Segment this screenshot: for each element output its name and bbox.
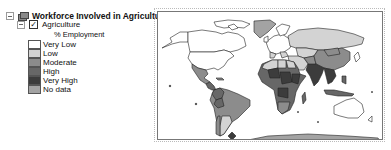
world-map	[158, 12, 383, 140]
legend-label: Very Low	[43, 40, 76, 49]
legend-field-label: % Employment	[54, 30, 104, 39]
legend-item: Very High	[28, 76, 78, 85]
legend-item: Very Low	[28, 40, 76, 49]
legend-label: Moderate	[43, 58, 77, 67]
legend-label: Very High	[43, 76, 78, 85]
legend-swatch-moderate	[28, 58, 41, 67]
legend-item: High	[28, 67, 59, 76]
legend-label: High	[43, 67, 59, 76]
layer-visibility-checkbox[interactable]: ✓	[29, 20, 38, 29]
legend-label: Low	[43, 49, 58, 58]
collapse-layer-icon[interactable]	[17, 21, 25, 29]
table-of-contents: Workforce Involved in Agriculture ✓ Agri…	[0, 0, 150, 150]
map-frame[interactable]	[157, 11, 383, 140]
layers-icon	[18, 12, 28, 20]
legend-item: Low	[28, 49, 58, 58]
legend-label: No data	[43, 85, 71, 94]
legend-swatch-no-data	[28, 85, 41, 94]
layer-name: Agriculture	[42, 20, 80, 29]
collapse-group-icon[interactable]	[6, 12, 14, 20]
legend-swatch-very-low	[28, 40, 41, 49]
legend-swatch-low	[28, 49, 41, 58]
legend-swatch-high	[28, 67, 41, 76]
layer-row[interactable]: ✓ Agriculture	[17, 20, 80, 29]
legend-item: Moderate	[28, 58, 77, 67]
legend-swatch-very-high	[28, 76, 41, 85]
legend-field-row: % Employment	[54, 30, 104, 39]
legend-item: No data	[28, 85, 71, 94]
